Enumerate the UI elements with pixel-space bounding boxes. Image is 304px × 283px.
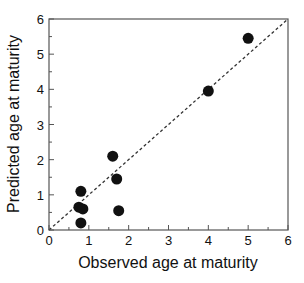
x-tick-label: 4 — [205, 233, 212, 248]
y-tick-label: 2 — [37, 153, 44, 168]
x-tick-label: 2 — [125, 233, 132, 248]
x-tick-label: 3 — [165, 233, 172, 248]
x-axis-label: Observed age at maturity — [78, 254, 258, 271]
data-point — [113, 205, 124, 216]
data-point — [75, 186, 86, 197]
data-points — [73, 33, 253, 229]
data-point — [203, 86, 214, 97]
y-tick-label: 0 — [37, 223, 44, 238]
data-point — [77, 203, 88, 214]
y-tick-label: 4 — [37, 82, 44, 97]
x-tick-label: 0 — [45, 233, 52, 248]
data-point — [243, 33, 254, 44]
y-axis-label: Predicted age at maturity — [5, 35, 22, 213]
x-tick-label: 6 — [284, 233, 291, 248]
y-axis-ticks: 0123456 — [37, 12, 54, 238]
data-point — [75, 217, 86, 228]
x-tick-label: 5 — [245, 233, 252, 248]
data-point — [111, 174, 122, 185]
y-tick-label: 3 — [37, 118, 44, 133]
scatter-chart: 0123456 0123456 Observed age at maturity… — [0, 0, 304, 283]
x-axis-ticks: 0123456 — [45, 225, 291, 248]
one-to-one-reference-line — [49, 19, 288, 230]
y-tick-label: 5 — [37, 47, 44, 62]
y-tick-label: 6 — [37, 12, 44, 27]
y-tick-label: 1 — [37, 188, 44, 203]
data-point — [107, 151, 118, 162]
x-tick-label: 1 — [85, 233, 92, 248]
